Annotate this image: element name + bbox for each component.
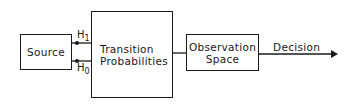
source-label: Source	[27, 46, 65, 58]
h0-subscript: 0	[85, 67, 90, 76]
transition-probabilities-block: Transition Probabilities	[91, 11, 173, 98]
decision-label: Decision	[273, 41, 320, 53]
source-block: Source	[20, 34, 72, 70]
h0-base: H	[77, 62, 85, 73]
observation-label: Observation Space	[189, 41, 256, 65]
hypothesis-h0-label: H0	[77, 63, 90, 77]
hypothesis-h1-label: H1	[77, 30, 90, 44]
transition-label: Transition Probabilities	[100, 43, 168, 67]
h1-base: H	[77, 29, 85, 40]
observation-space-block: Observation Space	[186, 34, 259, 71]
arrowhead-icon	[331, 50, 338, 58]
h1-subscript: 1	[85, 34, 90, 43]
